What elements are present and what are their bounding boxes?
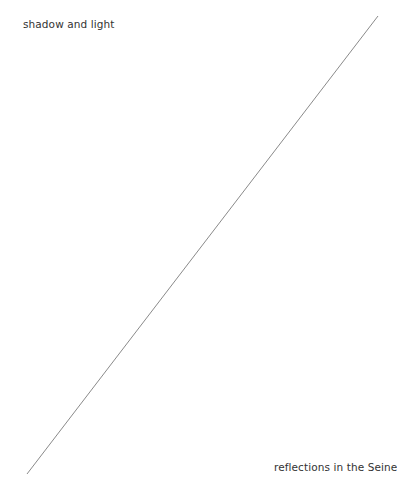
label-shadow-and-light: shadow and light	[23, 18, 115, 30]
label-reflections-in-the-seine: reflections in the Seine	[274, 461, 397, 473]
diagonal-line	[27, 16, 378, 474]
